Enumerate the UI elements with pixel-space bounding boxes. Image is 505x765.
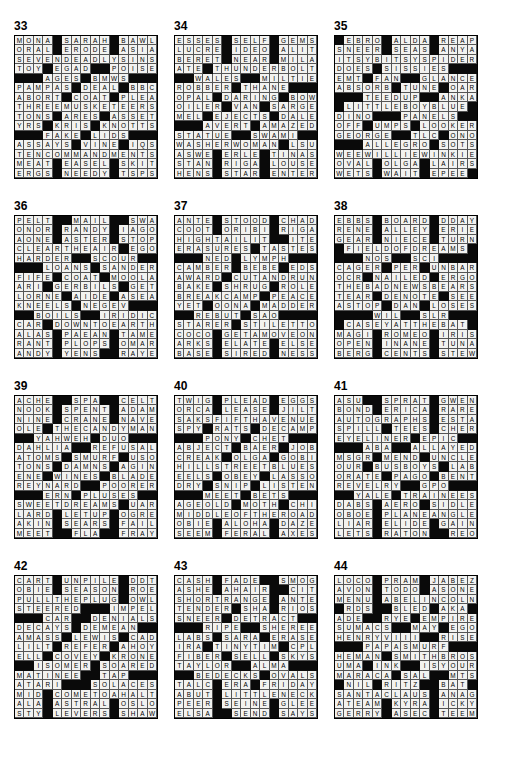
puzzle-number: 33 [14, 20, 158, 33]
grid-cell-letter: W [148, 709, 157, 718]
grid-cell-letter: S [241, 244, 250, 253]
grid-cell-letter: N [232, 642, 241, 651]
grid-cell-letter: L [100, 282, 109, 291]
grid-cell-letter: G [458, 273, 467, 282]
grid-cell-letter: E [213, 45, 222, 54]
grid-cell-letter: D [34, 690, 43, 699]
grid-cell-block [401, 481, 410, 490]
grid-cell-letter: A [129, 349, 138, 358]
grid-cell-letter: B [194, 633, 203, 642]
grid-cell-letter: T [194, 216, 203, 225]
grid-cell-letter: E [53, 254, 62, 263]
grid-cell-letter: S [420, 282, 429, 291]
grid-cell-letter: S [420, 311, 429, 320]
grid-cell-letter: Y [232, 434, 241, 443]
grid-cell-letter: B [184, 519, 193, 528]
grid-cell-letter: S [251, 405, 260, 414]
grid-cell-letter: E [468, 453, 477, 462]
grid-cell-letter: T [335, 292, 344, 301]
grid-cell-letter: N [194, 604, 203, 613]
grid-cell-letter: B [184, 690, 193, 699]
puzzle-number: 42 [14, 560, 158, 573]
grid-cell-letter: E [138, 93, 147, 102]
grid-cell-letter: E [232, 529, 241, 538]
grid-cell-letter: R [222, 140, 231, 149]
grid-cell-letter: B [373, 443, 382, 452]
grid-cell-letter: P [468, 36, 477, 45]
grid-cell-letter: A [129, 690, 138, 699]
grid-cell-letter: L [401, 225, 410, 234]
grid-cell-letter: T [289, 320, 298, 329]
grid-cell-block [289, 311, 298, 320]
grid-cell-block [53, 462, 62, 471]
grid-cell-letter: E [24, 623, 33, 632]
grid-cell-block [260, 671, 269, 680]
grid-cell-letter: I [392, 680, 401, 689]
grid-cell-block [24, 614, 33, 623]
grid-cell-letter: M [260, 301, 269, 310]
grid-cell-block [62, 93, 71, 102]
grid-cell-letter: A [175, 64, 184, 73]
grid-cell-letter: E [241, 472, 250, 481]
grid-cell-letter: A [194, 131, 203, 140]
grid-cell-letter: T [298, 320, 307, 329]
grid-cell-letter: N [62, 169, 71, 178]
grid-cell-letter: P [382, 510, 391, 519]
grid-cell-block [119, 244, 128, 253]
grid-cell-letter: A [392, 642, 401, 651]
grid-cell-letter: Y [439, 661, 448, 670]
grid-cell-letter: A [53, 481, 62, 490]
grid-cell-letter: S [392, 462, 401, 471]
grid-cell-letter: A [129, 415, 138, 424]
grid-cell-letter: P [184, 93, 193, 102]
grid-cell-letter: E [420, 510, 429, 519]
grid-cell-letter: O [449, 661, 458, 670]
grid-cell-letter: I [289, 55, 298, 64]
grid-cell-block [430, 604, 439, 613]
grid-cell-letter: C [148, 311, 157, 320]
grid-cell-letter: T [260, 462, 269, 471]
grid-cell-letter: D [289, 301, 298, 310]
grid-cell-letter: L [401, 604, 410, 613]
grid-cell-letter: O [363, 112, 372, 121]
grid-cell-letter: N [100, 424, 109, 433]
grid-cell-letter: E [354, 339, 363, 348]
grid-cell-block [430, 680, 439, 689]
grid-cell-letter: P [344, 339, 353, 348]
grid-cell-letter: E [392, 102, 401, 111]
grid-cell-letter: U [344, 415, 353, 424]
grid-cell-letter: A [251, 443, 260, 452]
grid-cell-letter: Y [411, 55, 420, 64]
grid-cell-letter: R [411, 263, 420, 272]
grid-cell-letter: E [458, 529, 467, 538]
grid-cell-block [392, 131, 401, 140]
grid-cell-block [382, 263, 391, 272]
grid-cell-letter: P [100, 510, 109, 519]
grid-cell-block [43, 709, 52, 718]
grid-cell-letter: Y [194, 424, 203, 433]
grid-cell-block [175, 491, 184, 500]
grid-cell-letter: W [363, 150, 372, 159]
puzzle-block: 35EBROALDAREAPSNEERSEASANYAITSYBITSYSPID… [334, 20, 478, 179]
grid-cell-letter: A [184, 680, 193, 689]
grid-cell-letter: P [439, 614, 448, 623]
grid-cell-letter: E [354, 434, 363, 443]
grid-cell-letter: R [100, 453, 109, 462]
grid-cell-letter: C [194, 405, 203, 414]
grid-cell-letter: R [260, 614, 269, 623]
grid-cell-letter: U [298, 415, 307, 424]
grid-cell-letter: E [100, 614, 109, 623]
grid-cell-letter: O [62, 320, 71, 329]
grid-cell-letter: S [335, 690, 344, 699]
grid-cell-letter: E [354, 64, 363, 73]
grid-cell-letter: C [344, 273, 353, 282]
grid-cell-letter: M [335, 330, 344, 339]
grid-cell-block [100, 604, 109, 613]
grid-cell-letter: D [308, 216, 317, 225]
grid-cell-letter: N [449, 74, 458, 83]
grid-cell-letter: C [175, 330, 184, 339]
grid-cell-letter: M [148, 405, 157, 414]
grid-cell-letter: B [468, 462, 477, 471]
grid-cell-letter: S [43, 330, 52, 339]
grid-cell-letter: D [335, 112, 344, 121]
